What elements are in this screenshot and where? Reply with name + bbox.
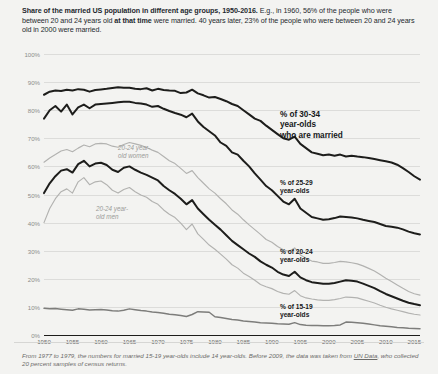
annotation-15-19: % of 15-19 year-olds	[280, 303, 313, 320]
caption-emphasis: at that time	[114, 16, 151, 25]
y-tick-50: 50%	[28, 191, 40, 198]
footnote-link[interactable]: UN Data	[354, 352, 378, 359]
y-tick-30: 30%	[28, 247, 40, 254]
y-tick-40: 40%	[28, 219, 40, 226]
series-line	[44, 87, 420, 179]
gridline-0	[44, 335, 420, 336]
plot-area: 0%10%20%30%40%50%60%70%80%90%100% 195019…	[44, 54, 420, 335]
series-line	[44, 178, 420, 315]
footnote-part-1: From 1977 to 1979, the numbers for marri…	[22, 352, 354, 359]
caption-title: Share of the married US population in di…	[22, 6, 258, 15]
annotation-25-29: % of 25-29 year-olds	[280, 179, 313, 196]
y-tick-10: 10%	[28, 303, 40, 310]
chart-page: Share of the married US population in di…	[0, 0, 438, 374]
annotation-20-24: % of 20-24 year-olds	[280, 248, 313, 265]
annotation-women: 20-24 year- old women	[118, 144, 150, 160]
y-tick-100: 100%	[24, 51, 40, 58]
annotation-men: 20-24 year- old men	[96, 205, 128, 221]
footer-divider	[14, 342, 424, 343]
y-tick-20: 20%	[28, 275, 40, 282]
annotation-30-34: % of 30-34 year-olds who are married	[280, 110, 343, 141]
y-tick-80: 80%	[28, 107, 40, 114]
chart-footnote: From 1977 to 1979, the numbers for marri…	[22, 352, 424, 368]
y-tick-90: 90%	[28, 79, 40, 86]
series-lines	[44, 54, 420, 335]
y-tick-70: 70%	[28, 135, 40, 142]
line-chart: 0%10%20%30%40%50%60%70%80%90%100% 195019…	[20, 42, 426, 338]
series-line	[44, 308, 420, 329]
series-line	[44, 161, 420, 305]
y-tick-60: 60%	[28, 163, 40, 170]
chart-caption: Share of the married US population in di…	[22, 6, 420, 35]
